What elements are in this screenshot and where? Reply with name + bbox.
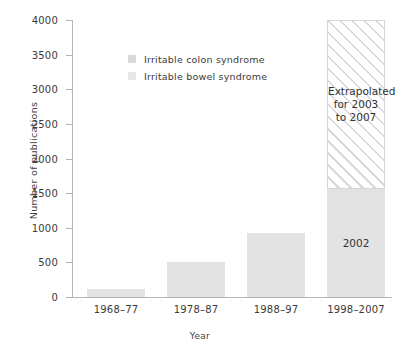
legend-label-colon: Irritable colon syndrome — [144, 54, 265, 65]
y-tick-mark — [66, 159, 72, 160]
y-tick-label: 2500 — [0, 118, 58, 129]
y-tick-label: 0 — [0, 292, 58, 303]
legend-item-irritable-bowel-syndrome: Irritable bowel syndrome — [128, 69, 267, 83]
y-tick-mark — [66, 228, 72, 229]
bar-segment-solid — [87, 289, 145, 297]
y-tick-mark — [66, 20, 72, 21]
bar-1988–97 — [247, 233, 305, 297]
x-axis-label: Year — [0, 331, 400, 341]
chart-legend: Irritable colon syndrome Irritable bowel… — [128, 52, 267, 86]
y-tick-mark — [66, 89, 72, 90]
bar-segment-solid: 2002 — [327, 189, 385, 297]
bar-label-extrapolated: Extrapolatedfor 2003to 2007 — [328, 85, 384, 124]
x-axis-line — [72, 297, 392, 298]
x-tick-label: 1988–97 — [236, 304, 316, 315]
y-tick-mark — [66, 262, 72, 263]
legend-item-irritable-colon-syndrome: Irritable colon syndrome — [128, 52, 267, 66]
y-tick-mark — [66, 55, 72, 56]
publications-bar-chart: Number of publications Year 050010001500… — [0, 0, 400, 360]
bar-1978–87 — [167, 262, 225, 297]
y-tick-label: 3500 — [0, 49, 58, 60]
y-tick-label: 3000 — [0, 84, 58, 95]
y-tick-mark — [66, 193, 72, 194]
y-tick-label: 1500 — [0, 188, 58, 199]
y-tick-label: 1000 — [0, 222, 58, 233]
y-tick-label: 500 — [0, 257, 58, 268]
x-tick-label: 1998–2007 — [316, 304, 396, 315]
bar-1998–2007: 2002Extrapolatedfor 2003to 2007 — [327, 20, 385, 297]
y-tick-label: 2000 — [0, 153, 58, 164]
legend-swatch-icon-bowel — [128, 72, 136, 80]
x-tick-label: 1968–77 — [76, 304, 156, 315]
legend-swatch-icon-colon — [128, 55, 136, 63]
y-tick-mark — [66, 297, 72, 298]
bar-1968–77 — [87, 289, 145, 297]
bar-segment-solid — [167, 262, 225, 297]
bar-segment-solid — [247, 233, 305, 297]
y-tick-label: 4000 — [0, 15, 58, 26]
x-tick-label: 1978–87 — [156, 304, 236, 315]
annotation-line: for 2003 — [328, 98, 384, 111]
annotation-line: to 2007 — [328, 111, 384, 124]
bar-label-solid-year: 2002 — [327, 237, 385, 250]
annotation-line: Extrapolated — [328, 85, 384, 98]
bar-segment-hatched-extrapolated: Extrapolatedfor 2003to 2007 — [327, 20, 385, 189]
y-axis-line — [72, 20, 73, 298]
y-tick-mark — [66, 124, 72, 125]
legend-label-bowel: Irritable bowel syndrome — [144, 71, 267, 82]
